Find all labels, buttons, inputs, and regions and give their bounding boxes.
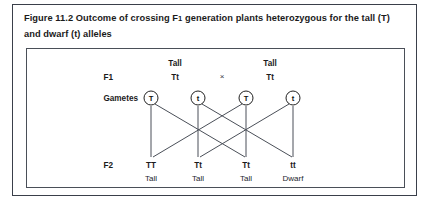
figure-title-subscript: 1	[178, 14, 182, 23]
parent-2-genotype: Tt	[266, 73, 274, 82]
row-label-gametes: Gametes	[103, 94, 138, 103]
diagram-panel	[26, 48, 405, 188]
offspring-2-phenotype: Tall	[192, 174, 204, 183]
gamete-circle-3: T	[239, 91, 254, 106]
offspring-2-genotype: Tt	[194, 161, 202, 170]
offspring-1-phenotype: Tall	[145, 174, 157, 183]
gamete-circle-4: t	[286, 91, 301, 106]
gamete-circle-2: t	[191, 91, 206, 106]
parent-1-phenotype: Tall	[168, 59, 182, 68]
offspring-4-phenotype: Dwarf	[283, 174, 304, 183]
parent-1-genotype: Tt	[171, 73, 179, 82]
row-label-f1: F1	[103, 73, 113, 82]
parent-2-phenotype: Tall	[263, 59, 277, 68]
cross-symbol: ×	[220, 72, 225, 81]
offspring-3-genotype: Tt	[242, 161, 250, 170]
figure-title: Figure 11.2 Outcome of crossing F1 gener…	[24, 11, 394, 41]
gamete-circle-1: T	[144, 91, 159, 106]
offspring-3-phenotype: Tall	[240, 174, 252, 183]
figure-container: Figure 11.2 Outcome of crossing F1 gener…	[0, 0, 429, 210]
offspring-1-genotype: TT	[146, 161, 156, 170]
figure-title-line1-rest: generation plants heterozygous for the	[182, 13, 359, 23]
offspring-4-genotype: tt	[290, 161, 295, 170]
figure-title-line1-prefix: Figure 11.2 Outcome of crossing F	[24, 13, 178, 23]
row-label-f2: F2	[103, 161, 113, 170]
